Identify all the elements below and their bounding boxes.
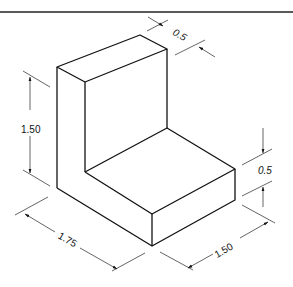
dim-label-top-thickness: 0.5	[171, 26, 189, 43]
dim-base-height: 0.5	[242, 128, 272, 207]
extension-line	[15, 197, 48, 215]
extension-line	[242, 181, 272, 196]
dimension-arrow	[80, 248, 117, 269]
extension-line	[160, 252, 193, 270]
dimension-arrow	[148, 17, 163, 26]
extension-line	[242, 205, 275, 223]
dimension-arrow	[188, 254, 213, 268]
base-top-face	[85, 128, 235, 214]
l-block	[57, 35, 235, 246]
dim-label-height: 1.50	[21, 124, 41, 135]
dimension-arrow	[199, 47, 215, 57]
extension-line	[23, 170, 50, 186]
dim-label-length: 1.75	[56, 230, 79, 249]
extension-line	[242, 149, 272, 165]
dim-height: 1.50	[21, 71, 50, 186]
dimension-arrow	[25, 214, 55, 232]
dim-depth: 1.50	[160, 205, 275, 270]
extension-line	[112, 253, 145, 271]
dim-label-depth: 1.50	[212, 240, 235, 259]
l-block-isometric-drawing: 0.5 1.50 0.5 1.75 1.50	[0, 0, 293, 287]
dimension-arrow	[240, 222, 268, 238]
extension-line	[147, 20, 168, 31]
base-bottom-edges	[57, 169, 235, 246]
dim-label-base-height: 0.5	[258, 165, 272, 176]
extension-line	[175, 40, 205, 55]
dim-top-thickness: 0.5	[147, 17, 215, 57]
extension-line	[23, 71, 50, 87]
dim-length: 1.75	[15, 197, 145, 271]
upright-top-face	[57, 35, 167, 82]
